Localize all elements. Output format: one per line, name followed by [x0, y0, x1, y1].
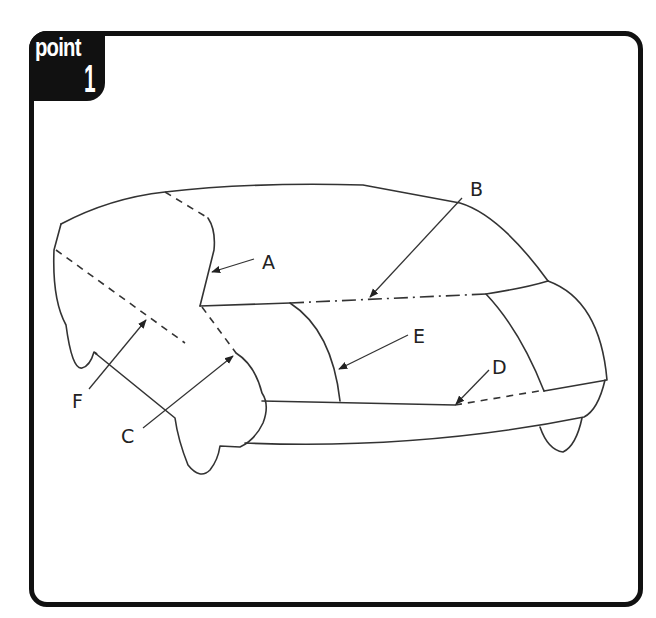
front-grille-curve — [95, 353, 266, 474]
dashed-f-line — [56, 250, 185, 343]
car-diagram: A B C D E F — [0, 0, 656, 618]
a-pillar — [200, 218, 214, 306]
rear-window-sill — [486, 281, 548, 294]
dashed-c-line — [202, 307, 236, 353]
rear-body — [544, 281, 607, 391]
arrow-e — [339, 335, 408, 369]
rocker-line — [262, 401, 455, 405]
dashed-roof-seam — [165, 192, 208, 218]
label-d: D — [492, 356, 507, 378]
label-e: E — [413, 325, 425, 347]
arrow-c — [143, 356, 233, 428]
dashdot-b-line — [290, 294, 486, 303]
front-face-left — [54, 224, 97, 368]
label-f: F — [72, 390, 83, 412]
arrow-a — [212, 259, 254, 272]
b-pillar — [290, 303, 340, 401]
label-b: B — [470, 178, 483, 200]
label-c: C — [121, 425, 134, 447]
dashed-d-line — [455, 390, 545, 405]
arrow-d — [456, 370, 489, 404]
arrow-b — [370, 198, 462, 297]
label-a: A — [262, 251, 275, 273]
beltline — [200, 303, 290, 306]
rear-wheel — [540, 418, 582, 452]
